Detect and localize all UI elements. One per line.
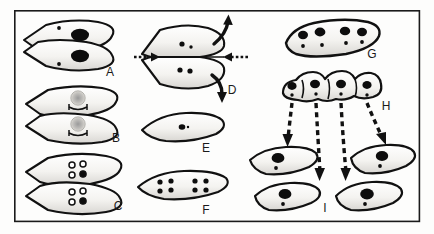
- cell-i-4: [336, 182, 402, 210]
- cell-i-2: [351, 145, 415, 173]
- chromosome-filled: [80, 198, 86, 204]
- nucleolus-dot: [281, 202, 285, 206]
- panel-e: E: [142, 113, 224, 155]
- nucleolus-dot: [57, 62, 61, 66]
- arrow-h-to-i-2: [315, 103, 326, 181]
- nucleolus-dot: [274, 166, 278, 170]
- nucleolus-dot: [301, 44, 305, 48]
- cell-g: [286, 20, 380, 57]
- cell-i-1: [250, 147, 317, 174]
- cell-division-diagram: A B: [0, 0, 434, 234]
- chromosome-open: [80, 188, 86, 194]
- nucleus: [272, 153, 285, 163]
- panel-label-a: A: [106, 65, 114, 79]
- cell-c-upper: [26, 154, 121, 186]
- chromosome-dot: [203, 187, 208, 192]
- arrow-h-to-i-1: [283, 103, 294, 147]
- chromosome-filled: [80, 171, 86, 177]
- nucleolus-dot: [360, 40, 364, 44]
- chromosome-dot: [157, 179, 162, 184]
- panel-label-c: C: [114, 199, 123, 213]
- nucleolus-dot: [187, 126, 189, 128]
- panel-i: I: [250, 145, 415, 215]
- nucleus: [362, 81, 371, 89]
- chromosome-open: [69, 189, 75, 195]
- arrow-in-right: [223, 53, 248, 62]
- arrow-h-to-i-3: [341, 103, 352, 181]
- chromosome-dot: [157, 188, 162, 193]
- nucleolus-dot: [365, 93, 368, 96]
- nucleus: [71, 29, 89, 41]
- panel-label-h: H: [382, 99, 391, 113]
- cell-d-upper: [142, 25, 224, 57]
- nucleus: [298, 31, 308, 39]
- chromosome-open: [69, 199, 75, 205]
- panel-label-g: G: [367, 47, 376, 61]
- nucleus: [287, 82, 296, 90]
- nucleolus-dot: [320, 43, 324, 47]
- nucleus: [71, 50, 89, 62]
- nucleus: [360, 189, 374, 200]
- nucleus: [340, 27, 350, 36]
- chromosome-dot: [189, 45, 192, 48]
- nucleolus-dot: [378, 164, 382, 168]
- panel-label-f: F: [202, 203, 209, 217]
- nucleolus-dot: [290, 93, 293, 96]
- nucleus: [336, 80, 346, 88]
- panel-g: G: [286, 20, 380, 61]
- cell-b-upper: [26, 86, 117, 116]
- cell-e: [142, 113, 224, 141]
- panel-label-e: E: [202, 141, 210, 155]
- cell-i-3: [255, 183, 320, 210]
- diagram-canvas: A B: [0, 0, 434, 234]
- chromosome-dot: [203, 178, 208, 183]
- stippled-nucleus: [71, 117, 85, 131]
- chromosome-dot: [187, 68, 192, 73]
- nucleus: [310, 80, 320, 88]
- cell-d-lower: [142, 57, 224, 89]
- panel-a: A: [24, 21, 114, 79]
- chromosome-open: [80, 161, 86, 167]
- nucleus: [376, 151, 388, 161]
- nucleus: [357, 28, 367, 36]
- chromosome-dot: [192, 178, 197, 183]
- cell-chain-h: [283, 71, 381, 101]
- panel-label-i: I: [323, 201, 326, 215]
- cell-f: [138, 171, 228, 199]
- chromosome-dot: [168, 178, 173, 183]
- panel-label-b: B: [112, 131, 120, 145]
- chromosome-dot: [179, 41, 184, 46]
- nucleolus-dot: [57, 26, 61, 30]
- nucleolus-dot: [339, 92, 342, 95]
- nucleus: [315, 28, 326, 37]
- chromosome-open: [69, 162, 75, 168]
- nucleus: [279, 189, 292, 199]
- panel-b: B: [26, 86, 120, 145]
- chromosome-open: [69, 172, 75, 178]
- cell-c-lower: [26, 182, 121, 214]
- chromosome-dot: [177, 67, 182, 72]
- panel-d: D: [134, 15, 248, 104]
- nucleus: [179, 124, 186, 129]
- nucleolus-dot: [314, 92, 317, 95]
- panel-label-d: D: [228, 83, 237, 97]
- panel-f: F: [138, 171, 228, 217]
- chromosome-dot: [192, 187, 197, 192]
- nucleolus-dot: [363, 202, 367, 206]
- cell-b-lower: [26, 113, 117, 143]
- panel-c: C: [26, 154, 123, 214]
- stippled-nucleus: [71, 91, 85, 105]
- nucleolus-dot: [344, 41, 348, 45]
- chromosome-dot: [168, 187, 173, 192]
